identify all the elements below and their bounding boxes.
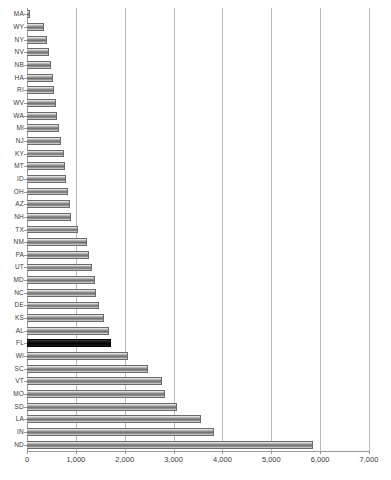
x-axis-label-4000: 4,000 <box>213 455 232 464</box>
bar-ny <box>27 36 47 44</box>
bar-row <box>27 162 369 170</box>
bar-row <box>27 112 369 120</box>
bar-row <box>27 377 369 385</box>
y-axis-label-wi: WI <box>0 352 24 359</box>
x-axis-label-7000: 7,000 <box>360 455 379 464</box>
y-axis-label-md: MD <box>0 276 24 283</box>
x-axis-label-2000: 2,000 <box>115 455 134 464</box>
bar-row <box>27 23 369 31</box>
y-tick-nv <box>24 52 27 53</box>
y-axis-label-ks: KS <box>0 314 24 321</box>
y-tick-az <box>24 204 27 205</box>
bar-row <box>27 441 369 449</box>
bar-row <box>27 36 369 44</box>
bar-nv <box>27 48 49 56</box>
bar-wy <box>27 23 44 31</box>
bar-row <box>27 390 369 398</box>
bar-md <box>27 276 95 284</box>
y-tick-ri <box>24 90 27 91</box>
bar-row <box>27 10 369 18</box>
x-tick-2000 <box>125 451 126 454</box>
y-axis-label-id: ID <box>0 175 24 182</box>
bar-de <box>27 302 99 310</box>
bar-mt <box>27 162 65 170</box>
y-axis-label-nb: NB <box>0 61 24 68</box>
bar-row <box>27 150 369 158</box>
y-tick-nc <box>24 293 27 294</box>
bar-wa <box>27 112 57 120</box>
y-axis-label-oh: OH <box>0 188 24 195</box>
y-axis-label-fl: FL <box>0 339 24 346</box>
bar-row <box>27 74 369 82</box>
y-tick-sd <box>24 407 27 408</box>
bar-row <box>27 314 369 322</box>
bar-row <box>27 365 369 373</box>
y-axis-label-la: LA <box>0 415 24 422</box>
y-axis-label-nm: NM <box>0 238 24 245</box>
y-axis-label-ut: UT <box>0 263 24 270</box>
y-tick-ha <box>24 78 27 79</box>
y-tick-ks <box>24 318 27 319</box>
y-axis-label-nj: NJ <box>0 137 24 144</box>
x-tick-6000 <box>320 451 321 454</box>
bar-row <box>27 428 369 436</box>
y-axis-label-nc: NC <box>0 289 24 296</box>
bar-nc <box>27 289 96 297</box>
y-tick-id <box>24 179 27 180</box>
y-axis-label-in: IN <box>0 428 24 435</box>
y-axis-label-wa: WA <box>0 112 24 119</box>
bar-row <box>27 327 369 335</box>
y-tick-nm <box>24 242 27 243</box>
x-axis-label-5000: 5,000 <box>262 455 281 464</box>
y-axis-label-nh: NH <box>0 213 24 220</box>
bar-row <box>27 200 369 208</box>
y-tick-wa <box>24 116 27 117</box>
bar-pa <box>27 251 89 259</box>
bar-row <box>27 352 369 360</box>
y-tick-pa <box>24 255 27 256</box>
y-tick-nd <box>24 445 27 446</box>
y-axis-category-labels: MAWYNYNVNBHARIWVWAMINJKYMTIDOHAZNHTXNMPA… <box>0 8 24 451</box>
y-tick-in <box>24 432 27 433</box>
x-axis-label-0: 0 <box>25 455 29 464</box>
x-tick-0 <box>27 451 28 454</box>
bar-oh <box>27 188 68 196</box>
y-tick-wy <box>24 27 27 28</box>
y-tick-nb <box>24 65 27 66</box>
y-tick-ny <box>24 40 27 41</box>
bar-wv <box>27 99 56 107</box>
y-axis-label-pa: PA <box>0 251 24 258</box>
y-tick-sc <box>24 369 27 370</box>
y-tick-mt <box>24 166 27 167</box>
y-axis-label-sd: SD <box>0 403 24 410</box>
x-axis-label-6000: 6,000 <box>311 455 330 464</box>
bar-az <box>27 200 70 208</box>
bar-row <box>27 264 369 272</box>
bar-row <box>27 124 369 132</box>
y-tick-mi <box>24 128 27 129</box>
y-axis-label-mt: MT <box>0 162 24 169</box>
bar-tx <box>27 226 78 234</box>
bar-row <box>27 289 369 297</box>
y-axis-label-ma: MA <box>0 10 24 17</box>
x-axis-label-1000: 1,000 <box>66 455 85 464</box>
bar-ky <box>27 150 64 158</box>
bar-ma <box>27 10 30 18</box>
bar-ha <box>27 74 53 82</box>
y-tick-md <box>24 280 27 281</box>
y-tick-mo <box>24 394 27 395</box>
y-tick-vt <box>24 381 27 382</box>
bar-row <box>27 213 369 221</box>
bar-nb <box>27 61 51 69</box>
x-axis-label-3000: 3,000 <box>164 455 183 464</box>
bar-vt <box>27 377 162 385</box>
bar-rows <box>27 8 369 451</box>
bar-row <box>27 188 369 196</box>
bar-nd <box>27 441 313 449</box>
bar-row <box>27 137 369 145</box>
bar-ks <box>27 314 104 322</box>
y-tick-ut <box>24 267 27 268</box>
bar-row <box>27 238 369 246</box>
bar-mo <box>27 390 165 398</box>
bar-fl <box>27 339 111 347</box>
